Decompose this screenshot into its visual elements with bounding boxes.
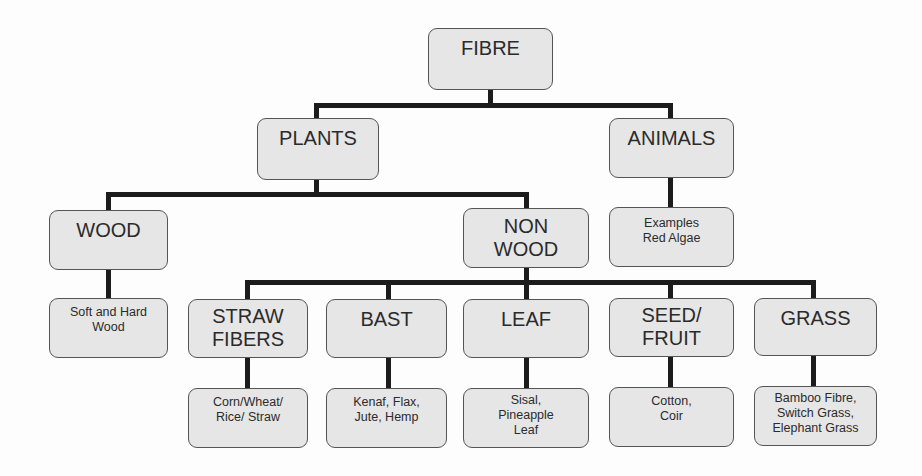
connector (386, 280, 391, 299)
node-seed-fruit: SEED/ FRUIT (609, 298, 734, 357)
node-bast: BAST (326, 299, 447, 358)
node-label: Jute, Hemp (355, 410, 419, 425)
node-label: FRUIT (642, 327, 701, 350)
node-label: Soft and Hard (70, 305, 147, 320)
connector (245, 358, 250, 389)
node-label: WOOD (76, 219, 140, 242)
node-label: SEED/ (641, 304, 701, 327)
node-grass-examples: Bamboo Fibre, Switch Grass, Elephant Gra… (754, 386, 877, 446)
connector (314, 103, 319, 119)
node-animal-examples: Examples Red Algae (609, 207, 734, 267)
node-label: Rice/ Straw (216, 410, 280, 425)
node-wood: WOOD (49, 210, 168, 270)
connector (245, 280, 250, 299)
connector (314, 103, 672, 108)
node-label: FIBRE (461, 37, 520, 60)
node-label: Wood (92, 320, 124, 335)
node-non-wood: NON WOOD (463, 208, 589, 268)
node-label: FIBERS (212, 328, 284, 351)
node-label: Cotton, (651, 394, 691, 409)
connector (245, 280, 816, 285)
node-plants: PLANTS (257, 118, 379, 180)
node-leaf: LEAF (463, 299, 589, 358)
node-label: Corn/Wheat/ (213, 395, 283, 410)
connector (524, 280, 529, 299)
node-label: Sisal, (511, 393, 542, 408)
node-label: WOOD (494, 238, 558, 261)
node-fibre: FIBRE (428, 28, 553, 90)
node-label: Elephant Grass (772, 421, 858, 436)
connector (106, 192, 529, 197)
connector (106, 192, 111, 211)
connector (386, 358, 391, 389)
node-label: Examples (644, 216, 699, 231)
node-soft-hard-wood: Soft and Hard Wood (49, 298, 168, 358)
node-seed-examples: Cotton, Coir (609, 387, 734, 447)
node-label: Pineapple (498, 408, 554, 423)
node-label: Leaf (514, 423, 538, 438)
node-bast-examples: Kenaf, Flax, Jute, Hemp (326, 388, 447, 448)
node-label: PLANTS (279, 127, 357, 150)
connector (668, 103, 673, 119)
connector (668, 357, 673, 388)
node-label: Bamboo Fibre, (775, 391, 857, 406)
node-label: GRASS (780, 307, 850, 330)
node-label: Kenaf, Flax, (353, 395, 420, 410)
node-label: Coir (660, 409, 683, 424)
node-label: Red Algae (643, 231, 701, 246)
node-straw-examples: Corn/Wheat/ Rice/ Straw (188, 388, 308, 448)
node-label: LEAF (501, 308, 551, 331)
node-grass: GRASS (754, 298, 877, 356)
connector (668, 178, 673, 208)
node-label: BAST (360, 308, 412, 331)
connector (524, 192, 529, 209)
node-straw-fibers: STRAW FIBERS (188, 299, 308, 358)
connector (811, 356, 816, 388)
node-label: ANIMALS (628, 127, 716, 150)
connector (668, 280, 673, 299)
node-label: NON (504, 215, 548, 238)
connector (811, 280, 816, 299)
node-label: STRAW (212, 305, 283, 328)
connector (106, 270, 111, 299)
connector (524, 358, 529, 389)
node-animals: ANIMALS (609, 118, 734, 178)
node-label: Switch Grass, (777, 406, 854, 421)
node-leaf-examples: Sisal, Pineapple Leaf (463, 388, 589, 448)
